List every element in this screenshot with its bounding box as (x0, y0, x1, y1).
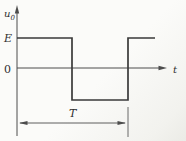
y-axis-arrowhead-icon (15, 5, 19, 14)
period-arrow-left-icon (19, 121, 28, 125)
x-axis-label: t (173, 64, 178, 75)
high-level-label: E (3, 32, 12, 45)
y-axis-label: u0 (4, 8, 15, 22)
period-label: T (69, 107, 78, 120)
square-wave-figure: u0 E 0 t T (0, 0, 186, 141)
period-arrow-right-icon (118, 121, 127, 125)
square-wave-path (17, 38, 155, 100)
y-axis-label-subscript: 0 (10, 14, 15, 22)
x-axis-arrowhead-icon (159, 66, 168, 70)
origin-label: 0 (4, 63, 11, 76)
figure-canvas: u0 E 0 t T (0, 0, 186, 141)
